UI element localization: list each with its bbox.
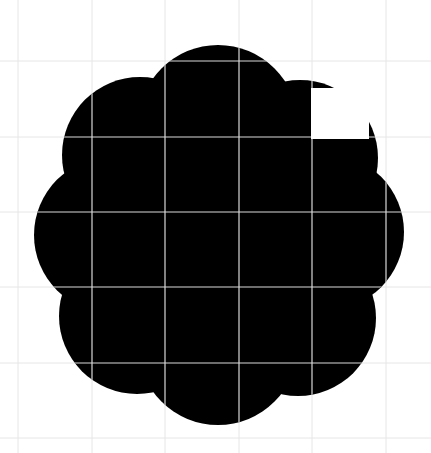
white-rectangle-cutout (311, 88, 369, 139)
figure-canvas (0, 0, 431, 453)
scalloped-shape-figure (0, 0, 431, 453)
shape-lobe (62, 77, 218, 233)
